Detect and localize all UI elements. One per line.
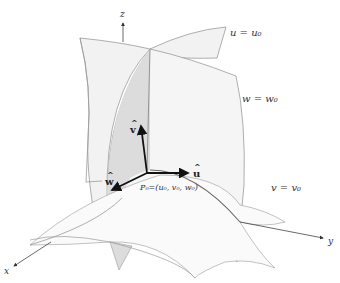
v-surface-label: v = v₀	[271, 182, 301, 193]
z-axis-label: z	[119, 9, 125, 19]
x-axis	[14, 242, 51, 266]
w-hat-caret: ^	[107, 169, 114, 179]
u-hat-caret: ^	[194, 161, 201, 171]
v-hat-caret: ^	[131, 117, 138, 127]
y-axis	[240, 222, 323, 238]
curvilinear-coordinates-diagram: z x y v ^ u ^ w ^ P₀=(u₀, v₀, w₀) u = u₀…	[0, 0, 340, 283]
u-surface-label: u = u₀	[230, 27, 262, 38]
lower-shade	[110, 242, 132, 270]
w-surface-label: w = w₀	[242, 93, 278, 104]
y-axis-label: y	[327, 236, 334, 246]
x-axis-label: x	[4, 266, 9, 276]
point-label: P₀=(u₀, v₀, w₀)	[139, 183, 198, 192]
